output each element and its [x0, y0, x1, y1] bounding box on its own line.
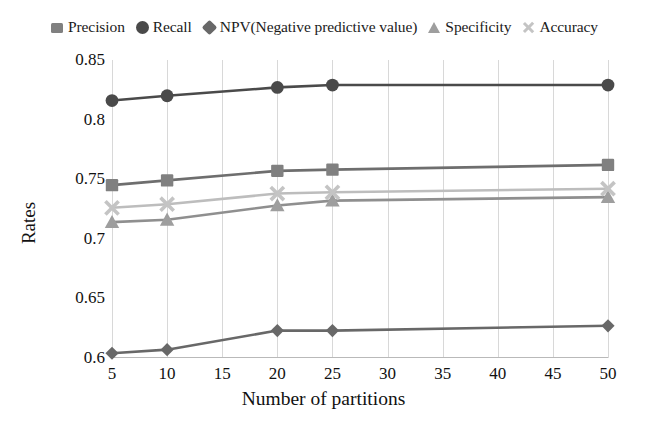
data-point-circle — [602, 79, 615, 92]
legend-item-recall[interactable]: Recall — [134, 18, 192, 36]
series-layer — [112, 60, 608, 358]
data-point-diamond — [601, 319, 614, 332]
x-tick-label: 5 — [108, 364, 117, 384]
data-point-circle — [161, 89, 174, 102]
data-point-square — [602, 159, 614, 171]
legend-label: Specificity — [445, 18, 511, 36]
plot-region: 0.60.650.70.750.80.85 510152025303540455… — [112, 60, 608, 358]
series-recall — [106, 79, 615, 107]
series-specificity — [105, 190, 615, 228]
legend-item-specificity[interactable]: Specificity — [426, 18, 511, 36]
chart-legend: PrecisionRecallNPV(Negative predictive v… — [0, 14, 647, 40]
legend-marker-x-icon — [520, 20, 537, 35]
legend-marker-circle-icon — [134, 20, 151, 35]
y-tick-label: 0.85 — [75, 50, 105, 70]
series-npv — [105, 319, 614, 360]
data-point-circle — [271, 81, 284, 94]
y-tick-label: 0.7 — [84, 229, 105, 249]
y-tick-label: 0.75 — [75, 169, 105, 189]
x-axis-label: Number of partitions — [0, 388, 647, 410]
x-tick-label: 25 — [324, 364, 341, 384]
x-tick-label: 20 — [269, 364, 286, 384]
series-line — [112, 197, 608, 222]
x-tick-label: 30 — [379, 364, 396, 384]
data-point-diamond — [271, 324, 284, 337]
legend-label: Precision — [68, 18, 125, 36]
data-point-diamond — [105, 347, 118, 360]
legend-label: Accuracy — [539, 18, 598, 36]
data-point-square — [326, 163, 338, 175]
data-point-square — [161, 174, 173, 186]
data-point-circle — [326, 79, 339, 92]
y-axis-label: Rates — [18, 178, 40, 268]
legend-label: Recall — [153, 18, 192, 36]
legend-item-npv[interactable]: NPV(Negative predictive value) — [201, 18, 418, 36]
legend-label: NPV(Negative predictive value) — [220, 18, 418, 36]
series-precision — [106, 159, 614, 192]
y-tick-label: 0.6 — [84, 348, 105, 368]
x-tick-label: 10 — [159, 364, 176, 384]
legend-marker-triangle-icon — [426, 20, 443, 35]
series-line — [112, 326, 608, 353]
series-line — [112, 165, 608, 185]
legend-item-precision[interactable]: Precision — [49, 18, 125, 36]
chart-page: PrecisionRecallNPV(Negative predictive v… — [0, 0, 647, 437]
data-point-square — [271, 165, 283, 177]
legend-marker-square-icon — [49, 20, 66, 35]
chart-area: Rates Number of partitions 0.60.650.70.7… — [0, 40, 647, 437]
x-tick-label: 40 — [489, 364, 506, 384]
legend-item-accuracy[interactable]: Accuracy — [520, 18, 598, 36]
gridline-vertical — [608, 60, 609, 358]
data-point-diamond — [161, 343, 174, 356]
x-tick-label: 15 — [214, 364, 231, 384]
y-tick-label: 0.8 — [84, 110, 105, 130]
legend-marker-diamond-icon — [201, 20, 218, 35]
series-line — [112, 85, 608, 100]
x-tick-label: 50 — [600, 364, 617, 384]
data-point-diamond — [326, 324, 339, 337]
x-tick-label: 45 — [544, 364, 561, 384]
y-tick-label: 0.65 — [75, 288, 105, 308]
data-point-square — [106, 179, 118, 191]
data-point-circle — [106, 94, 119, 107]
x-tick-label: 35 — [434, 364, 451, 384]
